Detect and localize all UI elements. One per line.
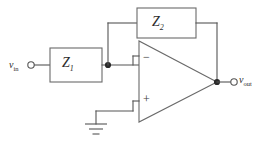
circuit-schematic-canvas [0,0,265,143]
inverting-input-sign: − [143,51,150,63]
output-terminal-ring [231,79,237,85]
opamp-triangle [139,41,217,122]
impedance-z2-label-subscript: 2 [160,23,164,32]
input-voltage-label-subscript: in [13,65,18,72]
impedance-z1-box [50,48,102,82]
noninverting-input-sign: + [143,93,150,105]
circuit-diagram: Z1 Z2 vin vout − + [0,0,265,143]
impedance-z2-label: Z2 [152,15,164,32]
input-terminal-ring [28,62,34,68]
impedance-z2-label-text: Z [152,14,160,29]
impedance-z1-label-text: Z [62,55,70,70]
impedance-z2-box [137,8,196,38]
impedance-z1-label: Z1 [62,56,74,73]
input-voltage-label: vin [9,60,19,73]
output-voltage-label-subscript: out [243,80,251,87]
impedance-z1-label-subscript: 1 [70,64,74,73]
output-voltage-label: vout [239,75,252,88]
